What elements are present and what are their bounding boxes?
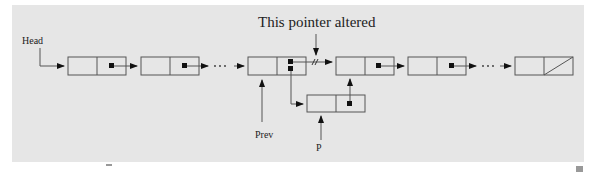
- node-p: [307, 95, 365, 112]
- node-last: [515, 57, 573, 75]
- head-pointer-arrow: [40, 48, 64, 66]
- end-mark: [576, 166, 583, 172]
- figure-title: This pointer altered: [258, 14, 375, 31]
- node-prev: [248, 57, 306, 75]
- head-label: Head: [22, 35, 43, 46]
- page-mark: [106, 164, 112, 166]
- prev-label: Prev: [255, 129, 273, 140]
- p-label: P: [316, 142, 322, 153]
